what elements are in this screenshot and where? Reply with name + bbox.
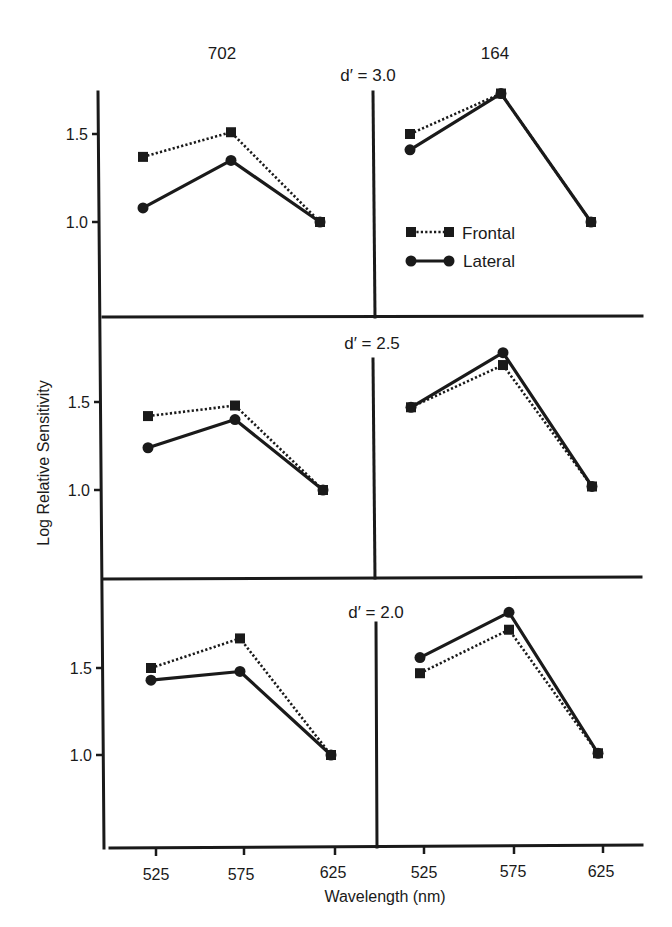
ytick-1-0-bot: 1.0 — [70, 747, 92, 764]
frontal-square-marker-icon — [143, 411, 153, 421]
ytick-1-0-mid: 1.0 — [68, 482, 90, 499]
lateral-circle-marker-icon — [230, 414, 241, 425]
legend-frontal-square-icon — [406, 227, 416, 237]
series-line-frontal — [420, 630, 598, 754]
xtick-575-right: 575 — [500, 863, 527, 880]
lateral-circle-marker-icon — [226, 155, 237, 166]
ytick-1-5-top: 1.5 — [66, 126, 88, 143]
series-line-lateral — [148, 420, 323, 490]
xtick-525-right: 525 — [411, 864, 438, 881]
frontal-square-marker-icon — [406, 402, 416, 412]
ytick-1-5-mid: 1.5 — [68, 394, 90, 411]
frontal-square-marker-icon — [230, 401, 240, 411]
xtick-625-left: 625 — [320, 864, 347, 881]
row-label-d3: d′ = 3.0 — [340, 66, 396, 85]
legend-lateral-circle-icon — [444, 256, 455, 267]
frontal-square-marker-icon — [405, 129, 415, 139]
x-axis-label: Wavelength (nm) — [324, 888, 445, 905]
ytick-1-5-bot: 1.5 — [70, 660, 92, 677]
xtick-525-left: 525 — [143, 866, 170, 883]
frontal-square-marker-icon — [504, 625, 514, 635]
legend — [406, 227, 455, 267]
lateral-circle-marker-icon — [405, 144, 416, 155]
frontal-square-marker-icon — [587, 481, 597, 491]
lateral-circle-marker-icon — [146, 675, 157, 686]
frontal-square-marker-icon — [498, 360, 508, 370]
frontal-square-marker-icon — [326, 750, 336, 760]
frontal-square-marker-icon — [496, 89, 506, 99]
series-line-frontal — [151, 638, 331, 755]
series-line-frontal — [411, 365, 592, 486]
xtick-625-right: 625 — [588, 863, 615, 880]
column-label-702: 702 — [208, 44, 236, 63]
frontal-square-marker-icon — [226, 127, 236, 137]
y-axis-label: Log Relative Sensitivity — [35, 380, 52, 545]
legend-frontal-square-icon — [444, 227, 454, 237]
series-line-lateral — [143, 160, 320, 222]
frontal-square-marker-icon — [315, 217, 325, 227]
frontal-square-marker-icon — [146, 663, 156, 673]
legend-lateral-circle-icon — [406, 256, 417, 267]
lateral-circle-marker-icon — [415, 652, 426, 663]
frontal-square-marker-icon — [593, 748, 603, 758]
legend-lateral-label: Lateral — [463, 252, 515, 271]
series-line-frontal — [410, 94, 591, 222]
ytick-1-0-top: 1.0 — [66, 214, 88, 231]
frontal-square-marker-icon — [138, 152, 148, 162]
xtick-575-left: 575 — [228, 866, 255, 883]
axes-frame — [98, 92, 642, 848]
frontal-square-marker-icon — [318, 485, 328, 495]
frontal-square-marker-icon — [415, 668, 425, 678]
row-label-d25: d′ = 2.5 — [344, 334, 400, 353]
series-line-lateral — [410, 94, 591, 222]
column-label-164: 164 — [481, 44, 509, 63]
chart-figure: 702 164 d′ = 3.0 d′ = 2.5 d′ = 2.0 Log R… — [0, 0, 672, 927]
lateral-circle-marker-icon — [143, 442, 154, 453]
row-label-d2: d′ = 2.0 — [348, 603, 404, 622]
series-layer — [138, 88, 604, 760]
lateral-circle-marker-icon — [138, 202, 149, 213]
series-line-lateral — [411, 353, 592, 487]
lateral-circle-marker-icon — [498, 347, 509, 358]
frontal-square-marker-icon — [235, 633, 245, 643]
lateral-circle-marker-icon — [235, 666, 246, 677]
series-line-lateral — [151, 671, 331, 755]
frontal-square-marker-icon — [586, 217, 596, 227]
legend-frontal-label: Frontal — [462, 224, 515, 243]
series-line-frontal — [143, 132, 320, 222]
lateral-circle-marker-icon — [504, 607, 515, 618]
